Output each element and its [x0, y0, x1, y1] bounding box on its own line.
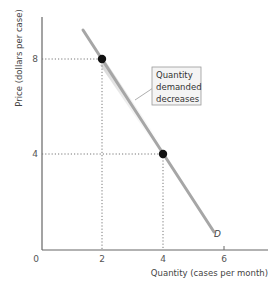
x-tick-label-4: 4 [160, 254, 166, 264]
annotation-line-2: demanded [156, 82, 202, 92]
curve-label-d: D [214, 229, 221, 239]
x-axis-label: Quantity (cases per month) [151, 268, 268, 278]
y-tick-label-8: 8 [32, 54, 38, 64]
y-tick-label-4: 4 [32, 149, 38, 159]
point-q4-p4 [159, 150, 167, 158]
annotation-line-1: Quantity [156, 70, 193, 80]
annotation-leader [135, 88, 153, 100]
x-tick-label-6: 6 [221, 254, 227, 264]
demand-chart: Quantity demanded decreases D 0 2 4 6 8 … [0, 0, 280, 289]
point-q2-p8 [98, 55, 106, 63]
annotation-line-3: decreases [156, 94, 200, 104]
origin-label: 0 [33, 254, 39, 264]
x-tick-label-2: 2 [99, 254, 105, 264]
y-axis-label: Price (dollars per case) [14, 9, 24, 107]
